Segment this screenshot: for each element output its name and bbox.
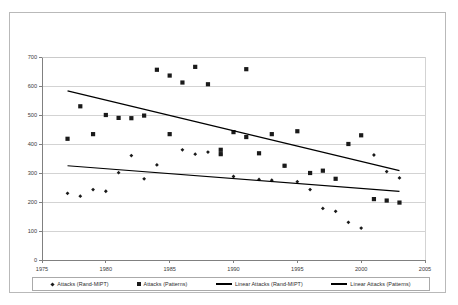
data-point-square bbox=[65, 137, 69, 141]
x-tick-label: 1995 bbox=[291, 266, 303, 272]
data-point-diamond bbox=[193, 152, 197, 156]
data-point-diamond bbox=[398, 176, 402, 180]
data-point-square bbox=[397, 200, 401, 204]
diamond-marker-icon bbox=[51, 282, 55, 286]
x-tick-label: 1980 bbox=[100, 266, 112, 272]
y-tick-label: 0 bbox=[34, 257, 37, 263]
data-point-square bbox=[193, 65, 197, 69]
data-point-diamond bbox=[66, 191, 70, 195]
x-tick-label: 1985 bbox=[163, 266, 175, 272]
data-point-diamond bbox=[334, 209, 338, 213]
data-point-square bbox=[78, 104, 82, 108]
y-tick-label: 600 bbox=[28, 83, 37, 89]
gridlines-group bbox=[42, 57, 425, 231]
legend-item-linear-attacks-rand-mipt[interactable]: Linear Attacks (Rand-MIPT) bbox=[216, 281, 303, 287]
data-point-square bbox=[206, 82, 210, 86]
data-point-diamond bbox=[206, 150, 210, 154]
trend-line bbox=[68, 91, 400, 171]
data-point-diamond bbox=[181, 148, 185, 152]
x-tick-label: 2000 bbox=[355, 266, 367, 272]
legend-item-attacks-patterns[interactable]: Attacks (Patterns) bbox=[137, 281, 187, 287]
data-point-square bbox=[270, 132, 274, 136]
data-point-diamond bbox=[155, 163, 159, 167]
data-point-diamond bbox=[91, 188, 95, 192]
data-point-square bbox=[334, 177, 338, 181]
data-point-square bbox=[155, 68, 159, 72]
square-marker-icon bbox=[137, 282, 140, 285]
legend-label: Linear Attacks (Rand-MIPT) bbox=[235, 281, 303, 287]
x-tick-label: 1990 bbox=[227, 266, 239, 272]
y-tick-label: 400 bbox=[28, 141, 37, 147]
data-point-diamond bbox=[142, 177, 146, 181]
data-point-square bbox=[359, 133, 363, 137]
y-tick-label: 200 bbox=[28, 199, 37, 205]
legend-item-attacks-rand-mipt[interactable]: Attacks (Rand-MIPT) bbox=[51, 281, 108, 287]
data-point-diamond bbox=[359, 226, 363, 230]
y-tick-label: 300 bbox=[28, 170, 37, 176]
data-point-square bbox=[91, 132, 95, 136]
chart-legend: Attacks (Rand-MIPT) Attacks (Patterns) L… bbox=[32, 277, 430, 291]
data-point-square bbox=[244, 135, 248, 139]
scatter-plot: 0100200300400500600700 19751980198519901… bbox=[0, 0, 458, 305]
data-point-diamond bbox=[104, 189, 108, 193]
data-point-square bbox=[117, 116, 121, 120]
data-point-square bbox=[385, 198, 389, 202]
legend-label: Attacks (Patterns) bbox=[144, 281, 188, 287]
data-point-diamond bbox=[372, 153, 376, 157]
y-tick-labels-group: 0100200300400500600700 bbox=[28, 54, 37, 263]
y-tick-label: 100 bbox=[28, 228, 37, 234]
legend-item-linear-attacks-patterns[interactable]: Linear Attacks (Patterns) bbox=[331, 281, 410, 287]
data-point-square bbox=[104, 113, 108, 117]
y-tick-label: 500 bbox=[28, 112, 37, 118]
data-point-square bbox=[257, 151, 261, 155]
data-point-diamond bbox=[129, 154, 133, 158]
y-tick-label: 700 bbox=[28, 54, 37, 60]
data-point-diamond bbox=[308, 188, 312, 192]
legend-label: Linear Attacks (Patterns) bbox=[350, 281, 410, 287]
series-attacks-rand-mipt bbox=[66, 148, 402, 230]
x-tick-label: 1975 bbox=[36, 266, 48, 272]
data-point-square bbox=[129, 116, 133, 120]
data-point-square bbox=[219, 148, 223, 152]
x-tick-label: 2005 bbox=[419, 266, 431, 272]
data-point-square bbox=[308, 171, 312, 175]
data-point-diamond bbox=[347, 220, 351, 224]
data-point-square bbox=[180, 80, 184, 84]
line-marker-icon bbox=[216, 283, 232, 284]
data-point-diamond bbox=[117, 171, 121, 175]
data-point-square bbox=[372, 197, 376, 201]
data-point-square bbox=[346, 142, 350, 146]
data-point-square bbox=[295, 129, 299, 133]
line-marker-icon bbox=[331, 283, 347, 284]
data-point-diamond bbox=[78, 194, 82, 198]
data-point-square bbox=[142, 113, 146, 117]
data-point-square bbox=[168, 132, 172, 136]
x-tick-labels-group: 1975198019851990199520002005 bbox=[36, 266, 431, 272]
trend-line bbox=[68, 166, 400, 192]
data-point-square bbox=[321, 169, 325, 173]
data-point-square bbox=[168, 73, 172, 77]
axes-group bbox=[39, 57, 425, 263]
legend-label: Attacks (Rand-MIPT) bbox=[57, 281, 108, 287]
data-point-diamond bbox=[321, 206, 325, 210]
data-point-square bbox=[244, 67, 248, 71]
